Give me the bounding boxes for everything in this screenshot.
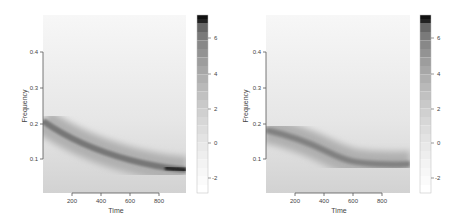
y-tick-label: 0.2 [253,121,262,127]
colorbar-tick-label: 0 [437,140,441,146]
y-tick-label: 0.2 [30,121,39,127]
colorbar-tick-label: 4 [214,71,218,77]
colorbar-tick-label: 4 [437,71,441,77]
colorbar-tick-label: 6 [214,35,218,41]
colorbar-tick-label: -2 [212,175,218,181]
colorbar-tick-label: 2 [437,106,441,112]
x-tick-label: 400 [319,198,330,204]
x-axis-label: Time [331,207,346,214]
x-axis: 200 400 600 800 Time [67,193,165,214]
x-tick-label: 600 [348,198,359,204]
y-axis: 0.4 0.3 0.2 0.1 Frequency [242,49,266,162]
right-spectrogram-panel: 0.4 0.3 0.2 0.1 Frequency 200 400 600 80… [223,0,454,223]
y-tick-label: 0.3 [253,85,262,91]
x-tick-label: 200 [290,198,301,204]
x-tick-label: 400 [96,198,107,204]
x-axis: 200 400 600 800 Time [290,193,388,214]
colorbar-tick-label: 2 [214,106,218,112]
x-tick-label: 200 [67,198,78,204]
x-tick-label: 800 [154,198,165,204]
y-axis-label: Frequency [242,89,250,123]
right-spectrogram: 0.4 0.3 0.2 0.1 Frequency 200 400 600 80… [223,0,462,223]
heatmap-area [43,15,186,193]
left-spectrogram-panel: 0.4 0.3 0.2 0.1 Frequency 200 400 600 80… [0,0,231,223]
x-axis-label: Time [108,207,123,214]
y-tick-label: 0.3 [30,85,39,91]
x-tick-label: 800 [377,198,388,204]
colorbar-tick-label: 0 [214,140,218,146]
y-axis-label: Frequency [21,89,29,123]
colorbar-tick-label: -2 [435,175,441,181]
y-tick-label: 0.4 [30,49,39,55]
left-spectrogram: 0.4 0.3 0.2 0.1 Frequency 200 400 600 80… [0,0,231,223]
y-tick-label: 0.4 [253,49,262,55]
y-axis: 0.4 0.3 0.2 0.1 Frequency [21,49,43,162]
y-tick-label: 0.1 [253,156,262,162]
colorbar: 6 4 2 0 -2 [420,15,441,193]
y-tick-label: 0.1 [30,156,39,162]
x-tick-label: 600 [125,198,136,204]
colorbar: 6 4 2 0 -2 [197,15,218,193]
colorbar-tick-label: 6 [437,35,441,41]
heatmap-area [266,15,410,193]
